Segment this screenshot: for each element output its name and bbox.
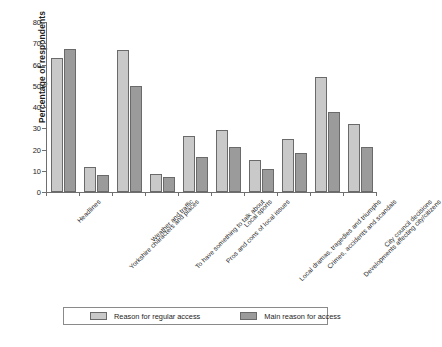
- y-tick-mark: [42, 22, 46, 23]
- y-tick-mark: [42, 107, 46, 108]
- bar: [348, 124, 361, 192]
- y-tick-label: 60: [33, 60, 41, 69]
- bar: [97, 175, 110, 192]
- x-tick-mark: [211, 192, 212, 196]
- plot-area: 01020304050607080: [46, 22, 376, 192]
- bar: [361, 147, 374, 192]
- legend-swatch-dark: [240, 312, 257, 320]
- y-tick-label: 30: [33, 124, 41, 133]
- legend-label-regular-access: Reason for regular access: [114, 312, 200, 321]
- y-tick-label: 10: [33, 166, 41, 175]
- bar: [262, 169, 275, 192]
- legend-item-regular-access: Reason for regular access: [90, 312, 200, 321]
- legend-swatch-light: [90, 312, 107, 320]
- y-tick-label: 80: [33, 18, 41, 27]
- x-tick-mark: [79, 192, 80, 196]
- y-tick-mark: [42, 43, 46, 44]
- bars-layer: [47, 22, 376, 192]
- y-tick-label: 0: [37, 188, 41, 197]
- bar: [295, 153, 308, 192]
- bar-group: [348, 22, 374, 192]
- bar-group: [216, 22, 242, 192]
- x-axis-label: Weather and traffic: [149, 198, 194, 243]
- bar-group: [282, 22, 308, 192]
- bar: [51, 58, 64, 192]
- x-tick-mark: [145, 192, 146, 196]
- x-tick-mark: [277, 192, 278, 196]
- x-axis-labels: HeadlinesYorkshire characters and places…: [46, 198, 391, 303]
- legend-label-main-reason: Main reason for access: [264, 312, 340, 321]
- bar-group: [51, 22, 77, 192]
- chart-legend: Reason for regular access Main reason fo…: [63, 307, 328, 325]
- y-tick-mark: [42, 128, 46, 129]
- bar: [64, 49, 77, 192]
- bar: [117, 50, 130, 192]
- legend-item-main-reason: Main reason for access: [240, 312, 340, 321]
- x-axis-label: Yorkshire characters and places: [127, 198, 199, 270]
- y-tick-label: 40: [33, 103, 41, 112]
- bar-group: [84, 22, 110, 192]
- bar: [282, 139, 295, 192]
- y-tick-label: 50: [33, 81, 41, 90]
- bar-group: [117, 22, 143, 192]
- bar-group: [183, 22, 209, 192]
- bar: [130, 86, 143, 192]
- x-tick-mark: [112, 192, 113, 196]
- x-tick-mark: [343, 192, 344, 196]
- x-tick-mark: [178, 192, 179, 196]
- y-tick-mark: [42, 171, 46, 172]
- x-tick-mark: [46, 192, 47, 196]
- bar: [183, 136, 196, 192]
- bar-group: [150, 22, 176, 192]
- bar-group: [315, 22, 341, 192]
- y-tick-mark: [42, 150, 46, 151]
- bar: [328, 112, 341, 192]
- x-axis-label: Headlines: [75, 198, 101, 224]
- y-tick-mark: [42, 86, 46, 87]
- bar: [315, 77, 328, 192]
- bar: [150, 174, 163, 192]
- x-tick-mark: [376, 192, 377, 196]
- bar: [84, 167, 97, 193]
- x-tick-mark: [244, 192, 245, 196]
- bar: [163, 177, 176, 192]
- y-tick-mark: [42, 65, 46, 66]
- bar: [216, 130, 229, 192]
- x-axis-label: Crimes, accidents and scandals: [325, 198, 397, 270]
- y-tick-label: 70: [33, 39, 41, 48]
- bar: [249, 160, 262, 192]
- bar: [229, 147, 242, 192]
- y-tick-label: 20: [33, 145, 41, 154]
- bar: [196, 157, 209, 192]
- bar-group: [249, 22, 275, 192]
- x-tick-mark: [310, 192, 311, 196]
